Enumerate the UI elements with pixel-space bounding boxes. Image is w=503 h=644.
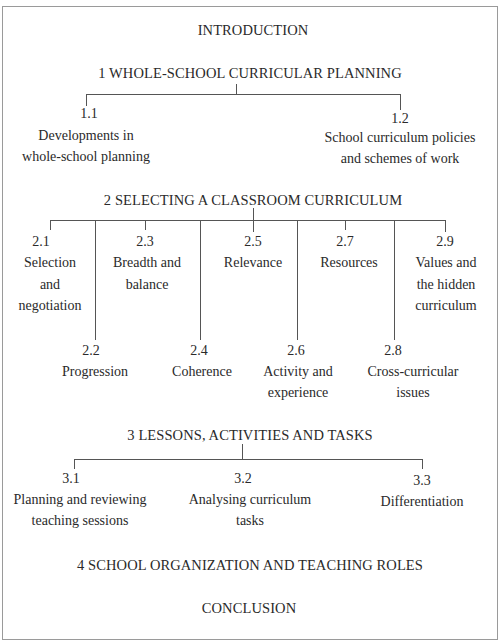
item-1-2-label-line2: and schemes of work <box>341 149 460 169</box>
item-2-3-number: 2.3 <box>136 232 154 252</box>
section-1-stem <box>236 84 237 94</box>
section-3-branch <box>74 459 423 460</box>
connector-1-2 <box>400 94 401 110</box>
connector-2-3 <box>145 220 146 230</box>
item-2-4-label-line1: Coherence <box>172 362 232 382</box>
connector-2-8 <box>394 220 395 340</box>
item-2-5-number: 2.5 <box>244 232 262 252</box>
connector-2-6 <box>297 220 298 340</box>
item-2-1-label-line1: Selection <box>24 253 76 273</box>
item-3-1-label-line2: teaching sessions <box>32 511 129 531</box>
connector-2-5 <box>253 220 254 232</box>
connector-2-9 <box>445 220 446 232</box>
connector-3-3 <box>422 459 423 469</box>
item-2-3-label-line1: Breadth and <box>113 253 181 273</box>
introduction-heading: INTRODUCTION <box>198 20 309 40</box>
section-1-branch <box>86 94 401 95</box>
section-2-title: 2 SELECTING A CLASSROOM CURRICULUM <box>104 190 402 210</box>
item-2-9-label-line2: the hidden <box>417 275 476 295</box>
item-1-2-label-line1: School curriculum policies <box>325 128 476 148</box>
connector-3-1 <box>74 459 75 469</box>
item-2-4-number: 2.4 <box>190 341 208 361</box>
item-3-1-number: 3.1 <box>62 469 80 489</box>
diagram-frame <box>2 6 498 640</box>
item-2-7-number: 2.7 <box>336 232 354 252</box>
item-2-1-number: 2.1 <box>32 232 50 252</box>
section-3-title: 3 LESSONS, ACTIVITIES AND TASKS <box>127 425 372 445</box>
item-2-8-number: 2.8 <box>384 341 402 361</box>
section-2-branch <box>50 220 445 221</box>
item-3-1-label-line1: Planning and reviewing <box>14 490 147 510</box>
item-2-7-label-line1: Resources <box>320 253 378 273</box>
item-2-5-label-line1: Relevance <box>224 253 282 273</box>
item-3-3-label-line1: Differentiation <box>381 492 464 512</box>
section-3-stem <box>242 444 243 459</box>
item-3-2-label-line1: Analysing curriculum <box>189 490 311 510</box>
item-2-9-label-line3: curriculum <box>415 296 476 316</box>
item-1-1-label-line2: whole-school planning <box>22 147 150 167</box>
item-2-9-number: 2.9 <box>436 232 454 252</box>
item-2-6-label-line1: Activity and <box>263 362 333 382</box>
section-2-stem <box>253 208 254 220</box>
item-3-2-number: 3.2 <box>234 469 252 489</box>
item-2-8-label-line1: Cross-curricular <box>368 362 459 382</box>
connector-2-7 <box>345 220 346 230</box>
item-2-2-label-line1: Progression <box>62 362 128 382</box>
item-3-3-number: 3.3 <box>413 471 431 491</box>
connector-2-4 <box>200 220 201 340</box>
item-2-9-label-line1: Values and <box>415 253 476 273</box>
conclusion-heading: CONCLUSION <box>202 598 296 618</box>
item-2-8-label-line2: issues <box>396 383 429 403</box>
item-2-6-label-line2: experience <box>268 383 329 403</box>
item-1-1-number: 1.1 <box>80 104 98 124</box>
section-1-title: 1 WHOLE-SCHOOL CURRICULAR PLANNING <box>98 63 401 83</box>
item-2-2-number: 2.2 <box>82 341 100 361</box>
item-2-6-number: 2.6 <box>287 341 305 361</box>
item-2-1-label-line3: negotiation <box>19 296 82 316</box>
connector-2-1 <box>50 220 51 230</box>
item-2-3-label-line2: balance <box>126 275 169 295</box>
connector-2-2 <box>95 220 96 340</box>
item-1-1-label-line1: Developments in <box>38 126 133 146</box>
item-1-2-number: 1.2 <box>391 109 409 129</box>
item-2-1-label-line2: and <box>40 275 60 295</box>
item-3-2-label-line2: tasks <box>236 511 264 531</box>
section-4-title: 4 SCHOOL ORGANIZATION AND TEACHING ROLES <box>77 555 423 575</box>
